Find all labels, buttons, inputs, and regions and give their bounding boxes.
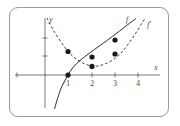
x-tick-label-3: 3 bbox=[113, 79, 117, 88]
x-tick-label-1: 1 bbox=[66, 79, 70, 88]
curve-label-f: f bbox=[126, 15, 129, 24]
curve-f bbox=[55, 19, 137, 110]
figure-frame: 1 2 3 4 x y f f′ bbox=[9, 7, 169, 117]
x-tick-label-4: 4 bbox=[136, 79, 140, 88]
x-axis-label: x bbox=[153, 63, 158, 72]
math-graph: 1 2 3 4 x y f f′ bbox=[10, 8, 168, 116]
data-point bbox=[89, 54, 94, 59]
curve-label-f-prime: f′ bbox=[147, 20, 151, 29]
data-point bbox=[112, 37, 117, 42]
data-point bbox=[89, 64, 94, 69]
data-point bbox=[65, 72, 70, 77]
data-point bbox=[65, 49, 70, 54]
data-point bbox=[112, 51, 117, 56]
x-tick-label-2: 2 bbox=[90, 79, 94, 88]
y-axis-label: y bbox=[48, 15, 53, 24]
curve-f-prime bbox=[47, 18, 146, 67]
